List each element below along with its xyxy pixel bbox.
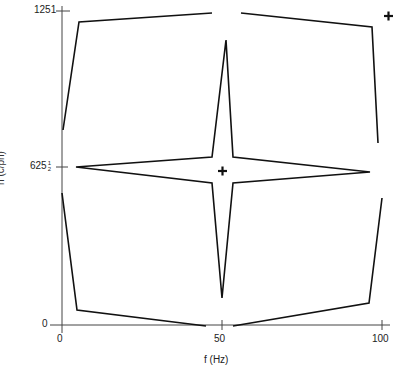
fraction-half: 12	[48, 160, 51, 172]
markers	[218, 12, 393, 176]
top-right-boundary	[241, 13, 378, 143]
y-tick-625-value: 625	[30, 160, 47, 171]
x-tick-label-0: 0	[57, 333, 63, 344]
x-tick-label-100: 100	[372, 333, 389, 344]
y-tick-label-625: 62512	[30, 160, 51, 172]
bottom-left-boundary	[62, 193, 206, 326]
bottom-right-boundary	[233, 198, 382, 326]
center-cross-icon	[218, 167, 227, 176]
x-tick-label-50: 50	[214, 333, 225, 344]
y-tick-label-0: 0	[42, 318, 48, 329]
corner-cross-icon	[384, 12, 393, 21]
x-axis-title: f (Hz)	[204, 354, 228, 365]
y-tick-label-1251: 1251	[34, 4, 56, 15]
top-left-boundary	[63, 13, 212, 130]
y-axis-title: n (c/ph)	[0, 151, 6, 185]
diagram-canvas	[0, 0, 398, 370]
